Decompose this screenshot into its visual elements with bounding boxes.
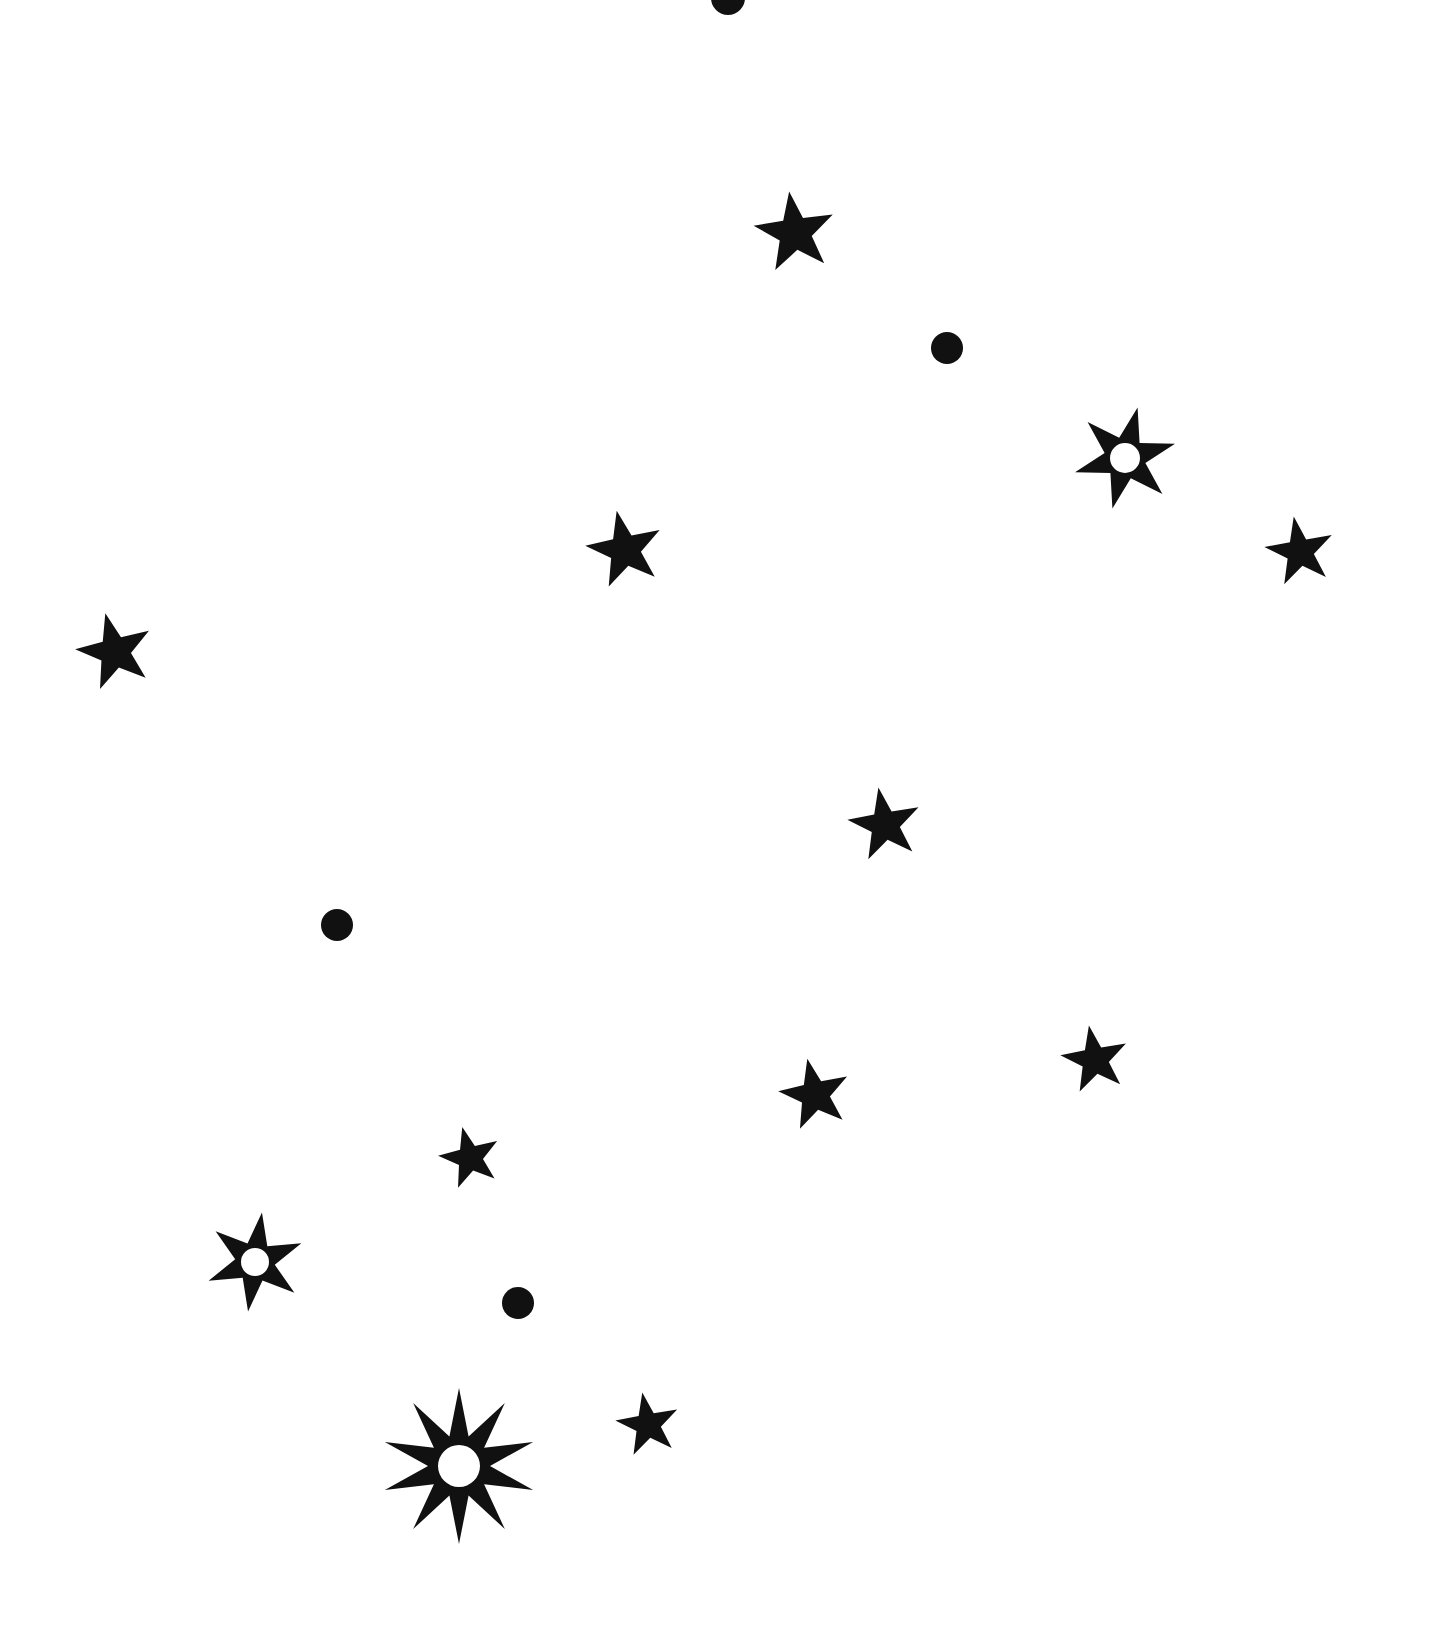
- five-point-star-icon: [434, 1122, 506, 1194]
- five-point-star-icon: [1260, 512, 1340, 592]
- five-point-star-icon-path: [1060, 1026, 1126, 1092]
- six-point-star-hole-icon-path: [1075, 408, 1175, 509]
- filled-circle-icon: [498, 1283, 538, 1323]
- six-point-star-hole-icon: [201, 1208, 309, 1316]
- six-point-star-hole-icon-path: [209, 1212, 302, 1311]
- filled-circle-icon-path: [321, 909, 353, 941]
- filled-circle-icon-path: [711, 0, 745, 15]
- five-point-star-icon-path: [75, 613, 149, 689]
- five-point-star-icon-path: [847, 788, 918, 860]
- five-point-star-icon: [1056, 1021, 1134, 1099]
- filled-circle-icon-path: [931, 332, 963, 364]
- five-point-star-icon-path: [585, 511, 659, 587]
- five-point-star-icon: [581, 506, 669, 594]
- five-point-star-icon: [774, 1054, 856, 1136]
- ten-point-burst-hole-icon-path: [385, 1388, 533, 1544]
- five-point-star-icon: [843, 783, 927, 867]
- filled-circle-icon: [707, 0, 749, 19]
- five-point-star-icon: [611, 1388, 685, 1462]
- six-point-star-hole-icon: [1069, 402, 1181, 514]
- star-field-canvas: [0, 0, 1447, 1631]
- five-point-star-icon: [71, 608, 159, 696]
- filled-circle-icon-path: [502, 1287, 534, 1319]
- ten-point-burst-hole-icon: [377, 1384, 541, 1548]
- five-point-star-icon-path: [615, 1393, 677, 1455]
- five-point-star-icon-path: [1264, 517, 1331, 585]
- five-point-star-icon: [749, 187, 841, 279]
- filled-circle-icon: [317, 905, 357, 945]
- filled-circle-icon: [927, 328, 967, 368]
- five-point-star-icon-path: [778, 1059, 847, 1129]
- five-point-star-icon-path: [754, 191, 833, 270]
- five-point-star-icon-path: [438, 1127, 497, 1188]
